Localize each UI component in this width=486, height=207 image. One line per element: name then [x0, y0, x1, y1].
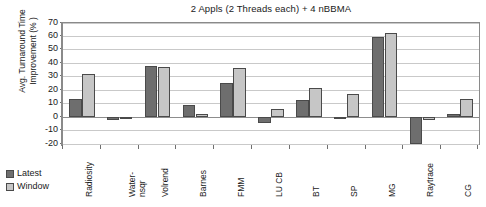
category-tick: [251, 145, 252, 149]
bar-group: [290, 23, 328, 144]
legend-label: Latest: [17, 169, 42, 178]
y-tick-label: 70: [32, 18, 58, 27]
bar-latest: [69, 99, 82, 117]
category-tick: [213, 145, 214, 149]
category-label: CG: [464, 184, 474, 197]
legend-swatch-icon: [6, 170, 14, 178]
legend-item: Window: [6, 180, 62, 193]
bar-window: [423, 117, 436, 120]
y-tick-label: -10: [32, 125, 58, 134]
chart-figure: 2 Appls (2 Threads each) + 4 nBBMA Avg. …: [0, 0, 486, 207]
category-label: Water-nsqr: [128, 143, 147, 197]
y-tick-label: 60: [32, 31, 58, 40]
y-axis-ticks: 706050403020100-10-20: [28, 22, 58, 145]
category-label: BT: [312, 186, 322, 197]
legend-label: Window: [17, 182, 49, 191]
bar-latest: [372, 37, 385, 117]
category-tick: [175, 145, 176, 149]
bar-latest: [220, 83, 233, 117]
y-tick-label: -20: [32, 139, 58, 148]
y-tick-label: 0: [32, 112, 58, 121]
bar-window: [385, 33, 398, 117]
category-tick: [477, 145, 478, 149]
category-tick: [327, 145, 328, 149]
bar-window: [82, 74, 95, 117]
category-label: FMM: [237, 178, 247, 197]
legend-item: Latest: [6, 167, 62, 180]
bar-latest: [145, 66, 158, 117]
bar-group: [252, 23, 290, 144]
legend-swatch-icon: [6, 183, 14, 191]
chart-title: 2 Appls (2 Threads each) + 4 nBBMA: [62, 3, 480, 14]
y-tick-label: 50: [32, 44, 58, 53]
bar-group: [403, 23, 441, 144]
bar-group: [441, 23, 479, 144]
bar-group: [101, 23, 139, 144]
category-tick: [440, 145, 441, 149]
category-tick: [289, 145, 290, 149]
bar-latest: [334, 117, 347, 119]
bar-latest: [183, 105, 196, 117]
bar-window: [460, 99, 473, 117]
y-tick-label: 10: [32, 98, 58, 107]
y-tick-label: 20: [32, 85, 58, 94]
category-label: Raytrace: [426, 163, 436, 197]
category-label: MG: [388, 183, 398, 197]
bar-group: [176, 23, 214, 144]
bar-group: [366, 23, 404, 144]
bar-window: [120, 117, 133, 119]
bar-window: [309, 88, 322, 117]
category-tick: [100, 145, 101, 149]
category-axis: RadiosityWater-nsqrVolrendBarnesFMMLU CB…: [62, 145, 480, 207]
category-tick: [402, 145, 403, 149]
y-tick-label: 30: [32, 71, 58, 80]
bar-window: [158, 67, 171, 117]
bar-group: [63, 23, 101, 144]
category-label: Barnes: [199, 170, 209, 197]
chart-legend: LatestWindow: [6, 167, 62, 193]
plot-area: [62, 22, 480, 145]
bar-group: [328, 23, 366, 144]
category-label: LU CB: [275, 172, 285, 197]
category-label: SP: [350, 186, 360, 197]
bar-latest: [107, 117, 120, 120]
category-tick: [365, 145, 366, 149]
category-label: Volrend: [161, 168, 171, 197]
category-label: Radiosity: [85, 162, 95, 197]
bar-group: [214, 23, 252, 144]
bar-group: [139, 23, 177, 144]
bar-window: [233, 68, 246, 117]
bar-latest: [258, 117, 271, 123]
bar-latest: [410, 117, 423, 144]
bar-window: [271, 109, 284, 117]
bar-latest: [296, 100, 309, 117]
bar-window: [196, 114, 209, 117]
category-tick: [62, 145, 63, 149]
bar-window: [347, 94, 360, 117]
bar-latest: [447, 114, 460, 117]
y-tick-label: 40: [32, 58, 58, 67]
